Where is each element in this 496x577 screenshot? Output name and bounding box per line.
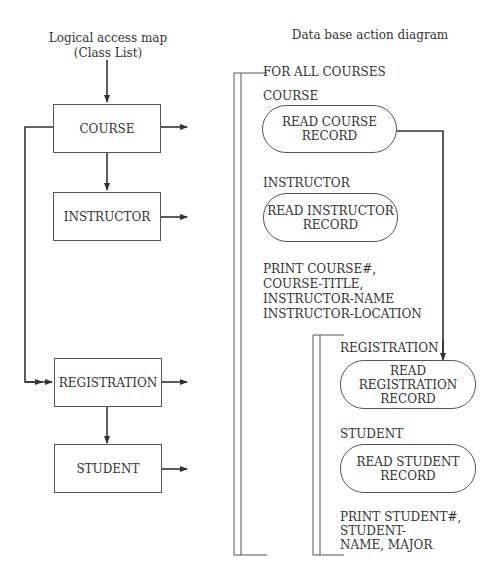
course-entity-label: COURSE <box>263 89 318 103</box>
entity-box-course: COURSE <box>53 104 161 153</box>
read-registration-record-action: READ REGISTRATION RECORD <box>340 360 476 409</box>
title-line-1: Logical access map <box>40 31 176 46</box>
entity-label: REGISTRATION <box>59 376 157 390</box>
print-course-statement: PRINT COURSE#, COURSE-TITLE, INSTRUCTOR-… <box>263 262 422 322</box>
print-student-statement: PRINT STUDENT#, STUDENT- NAME, MAJOR <box>340 510 461 552</box>
entity-label: INSTRUCTOR <box>64 210 151 224</box>
read-instructor-record-action: READ INSTRUCTOR RECORD <box>263 193 398 242</box>
student-entity-label: STUDENT <box>340 427 403 441</box>
registration-entity-label: REGISTRATION <box>340 341 438 355</box>
instructor-entity-label: INSTRUCTOR <box>263 176 350 190</box>
entity-box-registration: REGISTRATION <box>54 358 162 407</box>
title-line-2: (Class List) <box>40 46 176 61</box>
read-student-record-action: READ STUDENT RECORD <box>340 444 476 493</box>
read-course-record-action: READ COURSE RECORD <box>262 105 397 153</box>
action-diagram-title: Data base action diagram <box>270 28 470 43</box>
entity-box-instructor: INSTRUCTOR <box>53 192 161 241</box>
outer-loop-label: FOR ALL COURSES <box>263 65 386 79</box>
entity-label: STUDENT <box>76 462 139 476</box>
entity-box-student: STUDENT <box>54 444 162 493</box>
logical-access-map-title: Logical access map (Class List) <box>40 31 176 61</box>
entity-label: COURSE <box>79 122 134 136</box>
